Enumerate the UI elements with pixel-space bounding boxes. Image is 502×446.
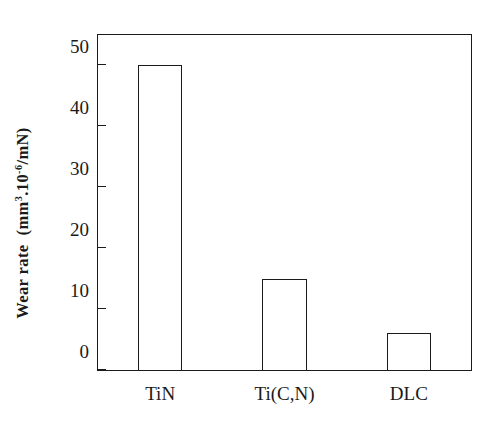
y-axis-tick-mark [98,247,106,248]
y-axis-unit-exponent-volume: 3 [13,196,24,202]
y-axis-tick-label: 10 [70,281,89,300]
bar-dlc [387,333,431,370]
y-axis-tick-mark [98,308,106,309]
y-axis-title-name: Wear rate [13,244,33,318]
y-axis-tick-mark [98,125,106,126]
x-axis-category-label: DLC [390,384,428,403]
y-axis-tick-mark [98,186,106,187]
plot-frame: 01020304050TiNTi(C,N)DLC [97,34,472,371]
y-axis-title-unit: (mm3.10-6/mN) [13,127,33,235]
y-axis-unit-close: /mN) [13,127,32,164]
y-axis-unit-mid: .10 [13,174,32,196]
y-axis-tick-label: 30 [70,159,89,178]
x-axis-category-label: Ti(C,N) [254,384,314,403]
plot-area: 01020304050TiNTi(C,N)DLC [98,35,471,370]
y-axis-title: Wear rate(mm3.10-6/mN) [0,0,46,446]
y-axis-tick-mark [98,369,106,370]
y-axis-tick-label: 20 [70,220,89,239]
bar-chart-figure: Wear rate(mm3.10-6/mN) 01020304050TiNTi(… [0,0,502,446]
y-axis-tick-label: 40 [70,98,89,117]
y-axis-tick-label: 0 [80,342,90,361]
y-axis-tick-label: 50 [70,37,89,56]
y-axis-unit-exponent-scale: -6 [13,165,24,174]
bar-ti-c-n [262,279,306,370]
x-axis-category-label: TiN [145,384,175,403]
bar-tin [138,65,182,370]
y-axis-tick-mark [98,64,106,65]
y-axis-unit-open: (mm [13,201,32,235]
